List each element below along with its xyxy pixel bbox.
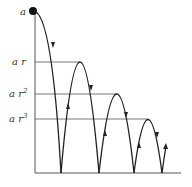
label-ar3: a r3 xyxy=(9,112,28,124)
arrow-up-icon xyxy=(163,143,168,149)
fall-path xyxy=(34,11,61,173)
bounce-arc-4-start xyxy=(162,146,166,173)
arrow-up-icon xyxy=(103,130,107,136)
arrow-up-icon xyxy=(137,142,141,148)
arrow-down-icon xyxy=(51,42,55,48)
bounce-arc-1 xyxy=(61,62,99,173)
label-a: a xyxy=(20,6,26,17)
arrow-up-icon xyxy=(66,103,70,109)
label-ar2: a r2 xyxy=(9,87,28,99)
label-ar: a r xyxy=(12,56,27,67)
bouncing-ball-diagram: a a r a r2 a r3 xyxy=(0,0,192,187)
arrow-down-icon xyxy=(124,112,128,118)
